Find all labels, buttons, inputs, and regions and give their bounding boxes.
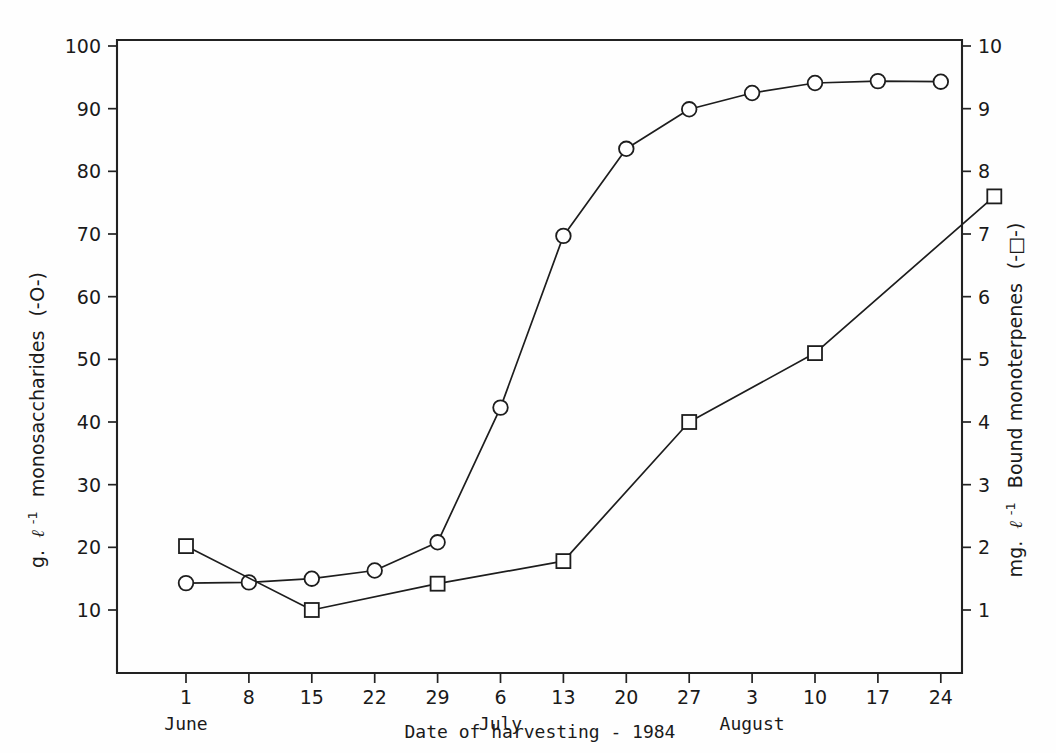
data-point-circle [745, 86, 760, 101]
data-point-circle [556, 229, 571, 244]
left-axis-title-exponent: -1 [25, 511, 40, 524]
left-axis-title-unit: ℓ [27, 530, 48, 538]
x-tick-label: 8 [243, 686, 255, 708]
left-tick-label: 60 [77, 286, 101, 308]
x-tick-label: 13 [551, 686, 575, 708]
x-tick-label: 15 [300, 686, 324, 708]
chart-figure: 102030405060708090100 12345678910 181522… [0, 0, 1056, 753]
right-axis-title-exponent: -1 [1003, 502, 1018, 515]
left-tick-label: 20 [77, 536, 101, 558]
data-point-circle [430, 535, 445, 550]
x-tick-label: 17 [866, 686, 890, 708]
right-tick-label: 4 [978, 411, 990, 433]
data-point-square [682, 415, 696, 429]
left-tick-label: 10 [77, 599, 101, 621]
data-point-circle [682, 102, 697, 117]
data-point-circle [305, 571, 320, 586]
data-point-circle [808, 76, 823, 91]
right-tick-label: 5 [978, 348, 990, 370]
left-axis-title-name: monosaccharides [26, 331, 48, 498]
right-tick-label: 7 [978, 223, 990, 245]
data-point-square [556, 554, 570, 568]
left-axis-tick-labels: 102030405060708090100 [65, 35, 101, 621]
right-tick-label: 3 [978, 474, 990, 496]
series-line-bound-monoterpenes [186, 196, 994, 610]
chart-svg: 102030405060708090100 12345678910 181522… [0, 0, 1056, 753]
left-axis-title-prefix: g. [26, 550, 48, 568]
left-tick-label: 80 [77, 160, 101, 182]
x-tick-label: 29 [426, 686, 450, 708]
left-tick-label: 90 [77, 98, 101, 120]
right-axis-tick-labels: 12345678910 [978, 35, 1002, 621]
data-point-circle [179, 576, 194, 591]
right-tick-label: 2 [978, 536, 990, 558]
right-axis-title-name: Bound monoterpenes [1004, 283, 1026, 488]
data-point-circle [367, 563, 382, 578]
left-tick-label: 100 [65, 35, 101, 57]
right-tick-label: 8 [978, 160, 990, 182]
right-tick-label: 6 [978, 286, 990, 308]
data-point-circle [619, 142, 634, 157]
left-axis-legend-glyph: (-O-) [26, 272, 48, 317]
right-axis-title-prefix: mg. [1004, 541, 1026, 578]
data-series-layer [179, 74, 1002, 617]
data-point-circle [934, 74, 949, 89]
data-point-square [987, 189, 1001, 203]
x-axis-ticks [186, 673, 941, 683]
data-point-circle [871, 74, 886, 89]
x-tick-label: 10 [803, 686, 827, 708]
x-tick-label: 27 [677, 686, 701, 708]
x-tick-label: 3 [746, 686, 758, 708]
x-tick-label: 1 [180, 686, 192, 708]
data-point-square [808, 346, 822, 360]
x-month-label: August [720, 713, 785, 734]
x-month-label: June [164, 713, 207, 734]
left-tick-label: 30 [77, 474, 101, 496]
left-tick-label: 40 [77, 411, 101, 433]
x-axis-tick-labels: 1815222961320273101724 [180, 686, 953, 708]
x-tick-label: 20 [614, 686, 638, 708]
svg-text:g. ℓ -1: g. ℓ -1 monosaccharides (-O-) [19, 272, 48, 568]
right-tick-label: 9 [978, 98, 990, 120]
left-axis-title: g. ℓ -1 monosaccharides (-O-) [19, 272, 48, 568]
left-tick-label: 50 [77, 348, 101, 370]
right-axis-title-unit: ℓ [1005, 521, 1026, 529]
data-point-circle [493, 400, 508, 415]
left-axis-ticks [108, 46, 117, 610]
x-axis-title: Date of harvesting - 1984 [405, 721, 676, 742]
x-tick-label: 6 [494, 686, 506, 708]
data-point-square [431, 577, 445, 591]
right-axis-legend-glyph: (-□-) [1004, 223, 1026, 270]
data-point-square [305, 603, 319, 617]
x-tick-label: 22 [363, 686, 387, 708]
series-line-monosaccharides [186, 81, 941, 583]
x-tick-label: 24 [929, 686, 953, 708]
right-axis-title: mg. ℓ -1 Bound monoterpenes (-□-) [997, 223, 1026, 578]
right-tick-label: 10 [978, 35, 1002, 57]
left-tick-label: 70 [77, 223, 101, 245]
svg-text:mg. ℓ -1: mg. ℓ -1 Bound monoterpenes (-□-) [997, 223, 1026, 578]
right-tick-label: 1 [978, 599, 990, 621]
data-point-square [179, 539, 193, 553]
right-axis-ticks [962, 46, 971, 610]
